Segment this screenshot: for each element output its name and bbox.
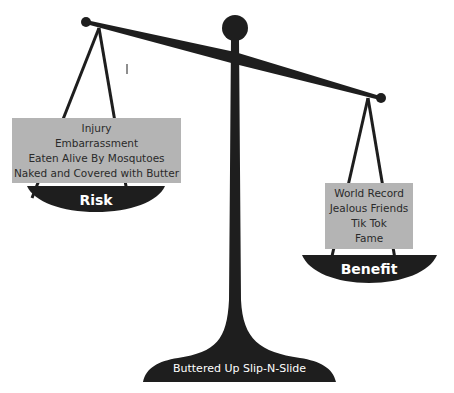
risk-item: Naked and Covered with Butter xyxy=(12,166,181,181)
risk-item: Injury xyxy=(12,121,181,136)
benefit-items-box: World Record Jealous Friends Tik Tok Fam… xyxy=(325,183,413,249)
pivot-knob xyxy=(222,15,248,41)
risk-item: Eaten Alive By Mosqutoes xyxy=(12,151,181,166)
left-beam-end xyxy=(81,17,91,27)
benefit-label: Benefit xyxy=(332,261,406,277)
center-post xyxy=(143,38,336,382)
benefit-item: Tik Tok xyxy=(325,216,413,231)
risk-label: Risk xyxy=(60,192,132,208)
risk-items-box: Injury Embarrassment Eaten Alive By Mosq… xyxy=(12,118,181,183)
benefit-item: World Record xyxy=(325,186,413,201)
scale-base-label: Buttered Up Slip-N-Slide xyxy=(143,362,336,375)
benefit-item: Fame xyxy=(325,231,413,246)
right-beam-end xyxy=(376,93,386,103)
benefit-item: Jealous Friends xyxy=(325,201,413,216)
risk-item: Embarrassment xyxy=(12,136,181,151)
